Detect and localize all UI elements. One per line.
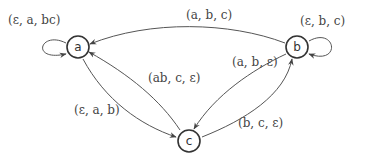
edge-b-a xyxy=(90,27,285,44)
edge-c-a xyxy=(89,52,180,130)
state-label-a: a xyxy=(74,40,81,54)
edge-b-b xyxy=(309,38,332,57)
edge-label-a-c: (ε, a, b) xyxy=(74,103,120,117)
edge-a-a xyxy=(43,40,66,55)
state-label-c: c xyxy=(186,134,193,148)
edge-label-b-b: (ε, b, c) xyxy=(300,14,345,28)
state-label-b: b xyxy=(293,40,301,54)
edge-label-c-a: (ab, c, ε) xyxy=(148,71,200,85)
edge-label-b-c: (a, b, ε) xyxy=(232,55,278,69)
state-node-b[interactable]: b xyxy=(286,36,308,58)
state-diagram: (ε, a, bc) (ε, b, c) (a, b, c) (ε, a, b)… xyxy=(0,0,367,156)
edge-label-c-b: (b, c, ε) xyxy=(238,116,283,130)
edge-label-b-a: (a, b, c) xyxy=(186,8,232,22)
edge-label-a-a: (ε, a, bc) xyxy=(8,13,60,27)
state-node-a[interactable]: a xyxy=(67,36,89,58)
state-node-c[interactable]: c xyxy=(178,130,200,152)
